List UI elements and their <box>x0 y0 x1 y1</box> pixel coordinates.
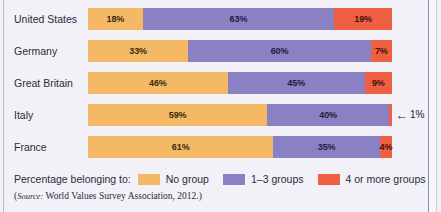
legend-item-no-group: No group <box>138 173 209 185</box>
legend-title: Percentage belonging to: <box>14 173 131 185</box>
legend-swatch-1-3-groups <box>223 174 245 185</box>
category-label-great-britain: Great Britain <box>14 70 86 96</box>
legend-item-4-or-more-groups: 4 or more groups <box>318 173 426 185</box>
category-label-united-states: United States <box>14 6 86 32</box>
figure-container: United States18%63%19%Germany33%60%7%Gre… <box>0 0 441 212</box>
bar-value-label: 7% <box>375 46 388 56</box>
legend-swatch-4-or-more-groups <box>318 174 340 185</box>
bar-segment-no-group: 46% <box>88 72 228 94</box>
chart-row: France61%35%4% <box>0 134 428 160</box>
stacked-bar-germany: 33%60%7% <box>88 40 392 62</box>
bar-value-label: 9% <box>372 78 385 88</box>
bar-segment-4-or-more-groups: 1% <box>389 104 392 126</box>
bar-segment-1-3-groups: 35% <box>273 136 379 158</box>
stacked-bar-united-states: 18%63%19% <box>88 8 392 30</box>
annotation-callout-1pct: ←1% <box>396 102 424 128</box>
bar-value-label: 40% <box>319 110 337 120</box>
legend-label-no-group: No group <box>166 173 209 185</box>
bar-value-label: 59% <box>169 110 187 120</box>
stacked-bar-italy: 59%40%1% <box>88 104 392 126</box>
bar-value-label: 35% <box>318 142 336 152</box>
bar-segment-4-or-more-groups: 19% <box>334 8 392 30</box>
chart-row: Germany33%60%7% <box>0 38 428 64</box>
bar-segment-1-3-groups: 40% <box>267 104 389 126</box>
arrow-left-icon: ← <box>396 109 408 121</box>
legend-label-4-or-more-groups: 4 or more groups <box>346 173 426 185</box>
stacked-bar-france: 61%35%4% <box>88 136 392 158</box>
category-label-france: France <box>14 134 86 160</box>
bar-value-label: 33% <box>129 46 147 56</box>
bar-value-label: 61% <box>172 142 190 152</box>
legend-label-1-3-groups: 1–3 groups <box>251 173 304 185</box>
bar-value-label: 18% <box>107 14 125 24</box>
category-label-italy: Italy <box>14 102 86 128</box>
bar-segment-1-3-groups: 45% <box>228 72 365 94</box>
chart-row: Great Britain46%45%9% <box>0 70 428 96</box>
chart-row: United States18%63%19% <box>0 6 428 32</box>
chart-row: Italy59%40%1%←1% <box>0 102 428 128</box>
bar-value-label: 46% <box>149 78 167 88</box>
bar-segment-no-group: 33% <box>88 40 188 62</box>
category-label-germany: Germany <box>14 38 86 64</box>
bar-segment-4-or-more-groups: 7% <box>371 40 392 62</box>
bar-segment-no-group: 18% <box>88 8 143 30</box>
source-note: (Source: World Values Survey Association… <box>14 191 202 201</box>
bar-value-label: 19% <box>354 14 372 24</box>
bar-segment-1-3-groups: 63% <box>143 8 335 30</box>
bar-segment-no-group: 59% <box>88 104 267 126</box>
annotation-value-label: 1% <box>410 102 424 128</box>
bar-value-label: 60% <box>271 46 289 56</box>
bar-segment-no-group: 61% <box>88 136 273 158</box>
source-label: Source: <box>17 191 43 201</box>
source-text: World Values Survey Association, 2012.) <box>43 191 202 201</box>
legend-swatch-no-group <box>138 174 160 185</box>
bar-value-label: 63% <box>230 14 248 24</box>
bar-value-label: 4% <box>380 142 393 152</box>
bar-segment-4-or-more-groups: 4% <box>380 136 392 158</box>
chart-legend: Percentage belonging to: No group 1–3 gr… <box>14 170 439 188</box>
legend-item-1-3-groups: 1–3 groups <box>223 173 304 185</box>
bar-segment-1-3-groups: 60% <box>188 40 370 62</box>
bar-segment-4-or-more-groups: 9% <box>365 72 392 94</box>
bar-value-label: 45% <box>287 78 305 88</box>
stacked-bar-great-britain: 46%45%9% <box>88 72 392 94</box>
